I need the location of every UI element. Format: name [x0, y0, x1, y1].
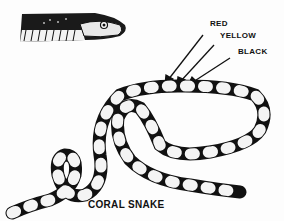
snake-body: [12, 86, 264, 213]
snake-head-closeup: [20, 13, 126, 42]
arrow-yellow: [180, 45, 214, 82]
arrow-red: [168, 35, 203, 80]
diagram-title: CORAL SNAKE: [88, 199, 164, 210]
pointer-arrows: [165, 35, 230, 86]
label-yellow: YELLOW: [220, 31, 256, 40]
coral-snake-diagram: RED YELLOW BLACK CORAL SNAKE: [0, 0, 284, 221]
label-red: RED: [210, 19, 228, 28]
label-black: BLACK: [238, 47, 268, 56]
